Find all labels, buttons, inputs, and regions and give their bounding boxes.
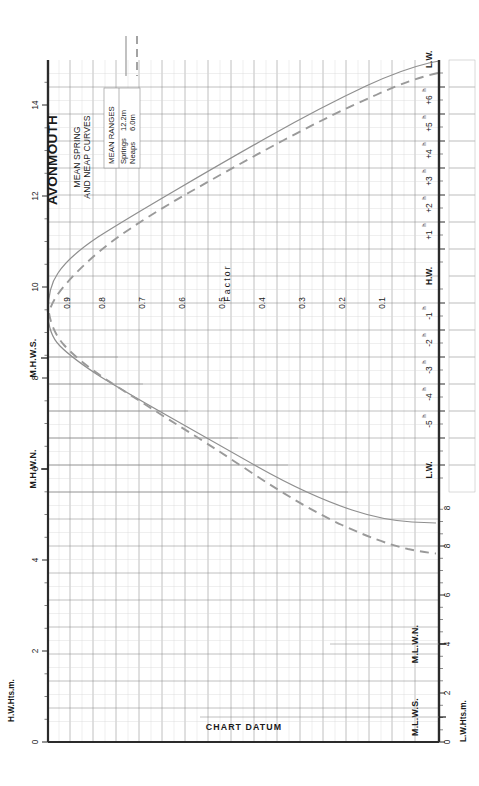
factor-title: Factor <box>222 264 232 302</box>
right-tick-8-upper: 8 <box>443 505 452 510</box>
factor-tick-0-7: 0.7 <box>138 297 147 309</box>
hour-label-minus5: -5 <box>424 420 434 428</box>
right-axis-label: L.W.Hts.m. <box>459 700 468 742</box>
factor-tick-0-8: 0.8 <box>98 297 107 309</box>
hour-label-plus5: +5 <box>424 122 434 132</box>
legend-neaps-label: Neaps <box>128 142 137 164</box>
factor-tick-0-6: 0.6 <box>178 297 187 309</box>
hour-label-plus4: +4 <box>424 149 434 159</box>
mhws-label: M.H.W.S. <box>28 339 38 378</box>
right-tick-2: 2 <box>443 690 452 695</box>
factor-tick-0-2: 0.2 <box>338 297 347 309</box>
left-tick-14: 14 <box>31 100 40 110</box>
left-tick-4: 4 <box>31 557 40 562</box>
hour-label-plus1: +1 <box>424 230 434 240</box>
factor-tick-0-1: 0.1 <box>378 297 387 309</box>
factor-tick-0-5: 0.5 <box>218 297 227 309</box>
hour-label-minus3: -3 <box>424 366 434 374</box>
right-tick-6: 6 <box>443 592 452 597</box>
page-title: AVONMOUTH <box>45 115 60 205</box>
tidal-curve-sheet: 0 2 4 6 8 10 12 14 H.W.Hts.m. <box>0 0 479 786</box>
hour-label-plus3: +3 <box>424 176 434 186</box>
hour-label-hw: H.W. <box>424 267 434 285</box>
right-tick-8: 8 <box>443 543 452 548</box>
factor-tick-0-3: 0.3 <box>298 297 307 309</box>
hour-label-plus2: +2 <box>424 203 434 213</box>
legend-heading: MEAN RANGES <box>107 106 116 164</box>
page-subtitle-line1: MEAN SPRING <box>72 126 82 187</box>
sup-plus2: h <box>421 197 427 200</box>
sup-plus3: h <box>421 170 427 173</box>
legend-springs-value: 12.2m <box>119 110 128 131</box>
sup-minus5: h <box>421 415 427 418</box>
hour-label-minus4: -4 <box>424 393 434 401</box>
hour-label-minus1: -1 <box>424 312 434 320</box>
left-axis-label: H.W.Hts.m. <box>7 679 16 722</box>
sup-plus5: h <box>421 116 427 119</box>
legend-springs-label: Springs <box>119 138 128 164</box>
factor-tick-0-4: 0.4 <box>258 297 267 309</box>
mhwn-label: M.H.W.N. <box>28 449 38 488</box>
sup-minus1: h <box>421 307 427 310</box>
sheet-background <box>0 0 479 786</box>
sup-minus3: h <box>421 361 427 364</box>
factor-tick-0-9: 0.9 <box>63 297 72 309</box>
left-tick-12: 12 <box>31 191 40 201</box>
tidal-curve-diagram: 0 2 4 6 8 10 12 14 H.W.Hts.m. <box>0 0 479 786</box>
sup-plus4: h <box>421 143 427 146</box>
left-tick-0: 0 <box>31 739 40 744</box>
hour-label-plus6: +6 <box>424 95 434 105</box>
left-tick-2: 2 <box>31 648 40 653</box>
sup-minus4: h <box>421 388 427 391</box>
legend-neaps-value: 6.0m <box>128 114 137 131</box>
hour-label-lw-bottom: L.W. <box>424 461 434 478</box>
right-tick-0: 0 <box>443 739 452 744</box>
chart-datum-label: CHART DATUM <box>206 722 282 732</box>
left-tick-10: 10 <box>31 282 40 292</box>
sup-plus6: h <box>421 89 427 92</box>
sup-plus1: h <box>421 224 427 227</box>
hour-label-minus2: -2 <box>424 339 434 347</box>
page-subtitle-line2: AND NEAP CURVES <box>82 115 92 198</box>
hour-label-lw-top: L.W. <box>424 51 434 68</box>
sup-minus2: h <box>421 334 427 337</box>
